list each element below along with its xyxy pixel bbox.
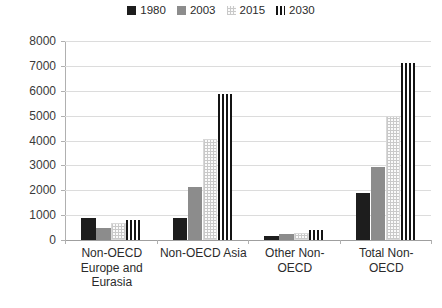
y-axis-tick-label: 5000 <box>0 110 56 122</box>
bar-2003-3 <box>371 167 386 240</box>
legend-label-2015: 2015 <box>240 4 266 16</box>
bar-2015-1 <box>203 139 218 240</box>
x-category-label-1: Non-OECD Asia <box>158 246 250 302</box>
y-axis-tick-label: 0 <box>0 234 56 246</box>
y-axis-tick-label: 6000 <box>0 85 56 97</box>
legend-item-2030: 2030 <box>276 4 315 16</box>
y-axis-tick-label: 2000 <box>0 184 56 196</box>
bar-2003-1 <box>188 187 203 240</box>
legend-swatch-2015-icon <box>227 6 236 15</box>
x-category-label-0: Non-OECD Europe and Eurasia <box>66 246 158 302</box>
legend-item-2015: 2015 <box>227 4 266 16</box>
bar-2030-0 <box>126 220 141 240</box>
bar-2030-1 <box>218 94 233 240</box>
x-axis-tick-mark <box>340 240 341 244</box>
legend-swatch-1980-icon <box>127 6 136 15</box>
x-category-label-2: Other Non-OECD <box>249 246 341 302</box>
bar-1980-3 <box>356 193 371 240</box>
y-axis-tick-label: 4000 <box>0 135 56 147</box>
bar-chart: 1980 2003 2015 2030 01000200030004000500… <box>0 0 442 308</box>
bar-2030-3 <box>401 63 416 240</box>
legend-label-2030: 2030 <box>289 4 315 16</box>
y-axis-tick-label: 1000 <box>0 209 56 221</box>
bar-1980-2 <box>264 236 279 240</box>
legend-label-2003: 2003 <box>190 4 216 16</box>
legend-label-1980: 1980 <box>140 4 166 16</box>
plot-area <box>65 41 431 240</box>
legend-swatch-2003-icon <box>177 6 186 15</box>
y-axis-tick-label: 8000 <box>0 35 56 47</box>
x-axis-tick-mark <box>248 240 249 244</box>
bar-2015-0 <box>111 223 126 240</box>
x-axis-tick-mark <box>65 240 66 244</box>
legend-item-2003: 2003 <box>177 4 216 16</box>
x-axis-tick-mark <box>431 240 432 244</box>
bar-2015-2 <box>294 233 309 240</box>
bar-2015-3 <box>386 116 401 240</box>
legend-item-1980: 1980 <box>127 4 166 16</box>
bar-2003-0 <box>96 228 111 240</box>
x-category-label-3: Total Non-OECD <box>341 246 433 302</box>
x-axis-category-labels: Non-OECD Europe and Eurasia Non-OECD Asi… <box>66 246 432 302</box>
bar-2030-2 <box>309 230 324 240</box>
chart-legend: 1980 2003 2015 2030 <box>0 4 442 16</box>
x-axis-tick-mark <box>157 240 158 244</box>
bar-2003-2 <box>279 234 294 240</box>
y-axis-tick-label: 7000 <box>0 60 56 72</box>
bar-1980-1 <box>173 218 188 240</box>
bar-1980-0 <box>81 218 96 240</box>
y-axis-tick-label: 3000 <box>0 159 56 171</box>
legend-swatch-2030-icon <box>276 6 285 15</box>
